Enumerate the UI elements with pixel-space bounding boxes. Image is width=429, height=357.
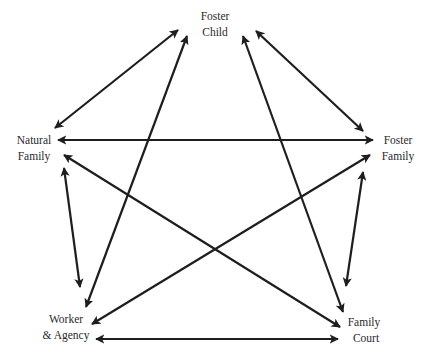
relationship-diagram: Foster Child Natural Family Foster Famil… bbox=[0, 0, 429, 357]
node-natural-family: Natural Family bbox=[17, 134, 51, 163]
node-label-line: Foster bbox=[384, 134, 413, 146]
node-label-line: Family bbox=[348, 316, 381, 329]
node-label-line: Family bbox=[18, 150, 51, 163]
node-label-line: Natural bbox=[17, 134, 51, 146]
arrow-natural-family-worker-agency bbox=[64, 168, 80, 287]
node-label-line: & Agency bbox=[43, 329, 90, 342]
node-foster-family: Foster Family bbox=[382, 134, 415, 163]
node-family-court: Family Court bbox=[348, 316, 381, 344]
arrow-worker-agency-foster-child bbox=[86, 36, 187, 307]
edges bbox=[55, 30, 373, 339]
node-label-line: Child bbox=[202, 26, 228, 38]
arrow-family-court-foster-child bbox=[243, 36, 343, 312]
node-label-line: Foster bbox=[201, 10, 230, 22]
node-label-line: Court bbox=[353, 332, 380, 344]
node-label-line: Family bbox=[382, 150, 415, 163]
node-worker-agency: Worker & Agency bbox=[43, 313, 90, 342]
arrow-foster-family-family-court bbox=[346, 172, 363, 286]
arrow-natural-family-foster-child bbox=[55, 30, 178, 128]
node-label-line: Worker bbox=[49, 313, 83, 325]
node-foster-child: Foster Child bbox=[201, 10, 230, 38]
arrow-natural-family-family-court bbox=[64, 155, 340, 327]
